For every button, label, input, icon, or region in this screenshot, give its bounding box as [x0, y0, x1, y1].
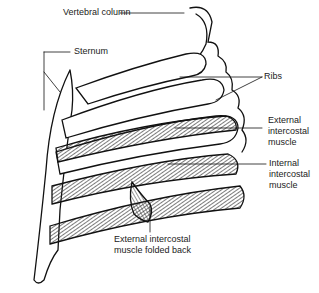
label-vertebral-column: Vertebral column: [63, 7, 131, 18]
label-external-intercostal: External intercostal muscle: [268, 115, 309, 148]
label-line: External intercostal: [114, 234, 191, 245]
label-sternum: Sternum: [74, 46, 108, 57]
label-folded-back: External intercostal muscle folded back: [114, 234, 191, 256]
label-line: Internal: [269, 158, 310, 169]
sternum: [34, 70, 73, 283]
label-line: External: [268, 115, 309, 126]
label-line: intercostal: [268, 126, 309, 137]
label-line: muscle: [268, 137, 309, 148]
label-ribs: Ribs: [264, 71, 282, 82]
label-internal-intercostal: Internal intercostal muscle: [269, 158, 310, 191]
rib-cage-diagram: Vertebral column Sternum Ribs External i…: [0, 0, 319, 293]
label-line: muscle: [269, 180, 310, 191]
label-line: intercostal: [269, 169, 310, 180]
label-line: muscle folded back: [114, 245, 191, 256]
